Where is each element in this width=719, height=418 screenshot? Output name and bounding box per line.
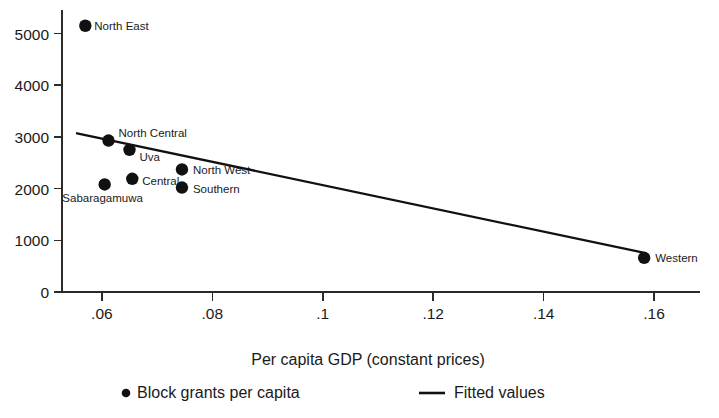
data-point[interactable]: North East bbox=[79, 20, 149, 32]
y-tick-label: 2000 bbox=[15, 181, 50, 198]
y-axis: 010002000300040005000 bbox=[15, 10, 62, 301]
y-tick-label: 1000 bbox=[15, 232, 50, 249]
fitted-values-line bbox=[77, 133, 646, 253]
x-axis-ticks: .06.08.1.12.14.16 bbox=[91, 292, 665, 322]
data-point-label: Central bbox=[142, 175, 179, 187]
y-tick-label: 3000 bbox=[15, 129, 50, 146]
data-point-marker[interactable] bbox=[126, 173, 138, 185]
y-tick-label: 4000 bbox=[15, 77, 50, 94]
y-axis-ticks: 010002000300040005000 bbox=[15, 26, 62, 301]
y-tick-label: 0 bbox=[40, 284, 49, 301]
chart-legend: Block grants per capitaFitted values bbox=[122, 384, 545, 401]
chart-canvas: 010002000300040005000 .06.08.1.12.14.16 … bbox=[0, 0, 719, 418]
data-point-label: Western bbox=[655, 252, 698, 264]
data-point-label: North Central bbox=[119, 127, 187, 139]
x-axis-title: Per capita GDP (constant prices) bbox=[251, 351, 485, 368]
data-point-label: North West bbox=[193, 164, 251, 176]
x-tick-label: .1 bbox=[316, 305, 329, 322]
x-tick-label: .12 bbox=[422, 305, 444, 322]
legend-label: Block grants per capita bbox=[137, 384, 300, 401]
data-point-marker[interactable] bbox=[176, 163, 188, 175]
data-point-label: Uva bbox=[140, 151, 161, 163]
data-point-marker[interactable] bbox=[98, 178, 110, 190]
data-point-label: Sabaragamuwa bbox=[62, 192, 143, 204]
legend-item: Fitted values bbox=[419, 384, 545, 401]
data-point-marker[interactable] bbox=[638, 252, 650, 264]
data-point-marker[interactable] bbox=[123, 144, 135, 156]
x-axis: .06.08.1.12.14.16 bbox=[62, 292, 700, 322]
legend-item: Block grants per capita bbox=[122, 384, 300, 401]
x-tick-label: .14 bbox=[533, 305, 555, 322]
data-points-group: North EastNorth CentralUvaSabaragamuwaCe… bbox=[62, 20, 697, 265]
data-point[interactable]: North Central bbox=[102, 127, 187, 147]
data-point[interactable]: Western bbox=[638, 252, 698, 264]
data-point-marker[interactable] bbox=[176, 181, 188, 193]
x-tick-label: .16 bbox=[643, 305, 665, 322]
scatter-chart-figure: 010002000300040005000 .06.08.1.12.14.16 … bbox=[0, 0, 719, 418]
data-point-marker[interactable] bbox=[102, 134, 114, 146]
fitted-values-segment bbox=[77, 133, 646, 253]
x-tick-label: .08 bbox=[202, 305, 224, 322]
data-point-label: North East bbox=[94, 20, 149, 32]
data-point-marker[interactable] bbox=[79, 20, 91, 32]
legend-marker-dot bbox=[122, 389, 131, 398]
y-tick-label: 5000 bbox=[15, 26, 50, 43]
data-point[interactable]: North West bbox=[176, 163, 251, 176]
data-point[interactable]: Southern bbox=[176, 181, 240, 194]
legend-label: Fitted values bbox=[454, 384, 545, 401]
x-tick-label: .06 bbox=[91, 305, 113, 322]
data-point-label: Southern bbox=[193, 183, 240, 195]
data-point[interactable]: Central bbox=[126, 173, 179, 187]
